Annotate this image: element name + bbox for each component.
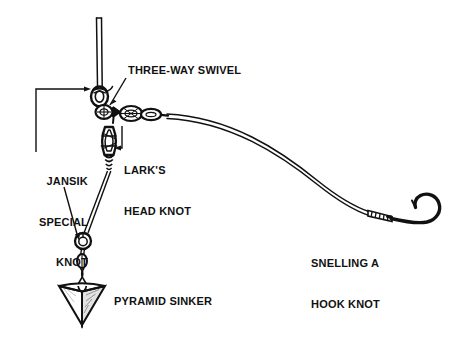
label-larks-head-knot-line2: HEAD KNOT: [124, 205, 191, 219]
label-jansik-line1: JANSIK: [12, 175, 88, 189]
main-fishing-line: [97, 18, 103, 86]
jansik-special-knot-upper: [91, 87, 113, 107]
leader-line: [167, 114, 370, 216]
pointer-jansik-upper: [36, 86, 91, 152]
label-snelling-line1: SNELLING A: [311, 257, 380, 271]
label-snelling-a-hook-knot: SNELLING A HOOK KNOT: [311, 230, 380, 338]
pointer-three-way-swivel: [110, 78, 126, 105]
label-larks-head-knot-line1: LARK'S: [124, 164, 191, 178]
fishing-rig-diagram: THREE-WAY SWIVEL LARK'S HEAD KNOT JANSIK…: [0, 0, 450, 349]
label-pyramid-sinker: PYRAMID SINKER: [114, 295, 212, 309]
three-way-swivel: [96, 105, 169, 123]
label-jansik-line2: SPECIAL: [12, 216, 88, 230]
label-larks-head-knot: LARK'S HEAD KNOT: [124, 137, 191, 245]
label-jansik-special-knot: JANSIK SPECIAL KNOT: [12, 148, 88, 297]
fishing-hook: [388, 194, 440, 223]
label-three-way-swivel: THREE-WAY SWIVEL: [128, 64, 241, 78]
label-jansik-line3: KNOT: [12, 256, 88, 270]
label-snelling-line2: HOOK KNOT: [311, 298, 380, 312]
sinker-dropper-line: [84, 171, 111, 233]
